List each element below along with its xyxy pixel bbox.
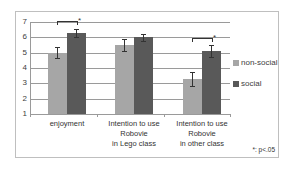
x-category-label: enjoyment: [32, 119, 102, 129]
error-bar: [211, 45, 212, 57]
x-label-line: Robovie: [167, 129, 237, 139]
legend-swatch: [233, 81, 239, 87]
x-tick-mark: [30, 114, 31, 117]
y-axis: [30, 22, 31, 114]
error-cap: [122, 51, 127, 52]
error-cap: [122, 39, 127, 40]
x-label-line: in Lego class: [99, 139, 169, 149]
x-label-line: Intention to use: [167, 119, 237, 129]
y-tick-label: 6: [17, 32, 27, 41]
error-cap: [55, 47, 60, 48]
error-cap: [209, 45, 214, 46]
x-tick-mark: [230, 114, 231, 117]
y-tick-label: 5: [17, 48, 27, 57]
significance-note: *: p<.05: [252, 146, 275, 153]
error-bar: [192, 72, 193, 86]
error-bar: [76, 29, 77, 37]
error-cap: [190, 72, 195, 73]
legend-label: non-social: [241, 58, 277, 67]
bar-social: [134, 37, 153, 114]
legend-item-social: social: [233, 79, 261, 88]
bar-social: [202, 51, 221, 114]
y-tick-label: 1: [17, 109, 27, 118]
bar-social: [67, 33, 86, 114]
bar-non-social: [48, 53, 67, 114]
significance-bracket: [192, 38, 213, 42]
y-tick-label: 2: [17, 94, 27, 103]
legend-label: social: [241, 79, 261, 88]
error-cap: [141, 34, 146, 35]
significance-star: *: [213, 33, 216, 42]
x-label-line: enjoyment: [32, 119, 102, 129]
x-label-line: Intention to use: [99, 119, 169, 129]
error-cap: [74, 37, 79, 38]
error-cap: [190, 86, 195, 87]
significance-star: *: [78, 16, 81, 25]
x-label-line: Robovie: [99, 129, 169, 139]
error-cap: [141, 41, 146, 42]
x-category-label: Intention to useRoboviein other class: [167, 119, 237, 149]
error-bar: [143, 34, 144, 42]
y-tick-label: 4: [17, 63, 27, 72]
x-label-line: in other class: [167, 139, 237, 149]
x-axis: [30, 114, 230, 115]
legend-item-non-social: non-social: [233, 58, 277, 67]
bar-non-social: [115, 45, 134, 114]
x-category-label: Intention to useRoboviein Lego class: [99, 119, 169, 149]
significance-bracket: [57, 21, 78, 25]
error-bar: [57, 47, 58, 58]
error-cap: [55, 58, 60, 59]
error-cap: [209, 57, 214, 58]
error-cap: [74, 29, 79, 30]
y-tick-label: 3: [17, 78, 27, 87]
x-tick-mark: [97, 114, 98, 117]
x-tick-mark: [164, 114, 165, 117]
y-tick-label: 7: [17, 17, 27, 26]
legend-swatch: [233, 60, 239, 66]
error-bar: [124, 39, 125, 51]
